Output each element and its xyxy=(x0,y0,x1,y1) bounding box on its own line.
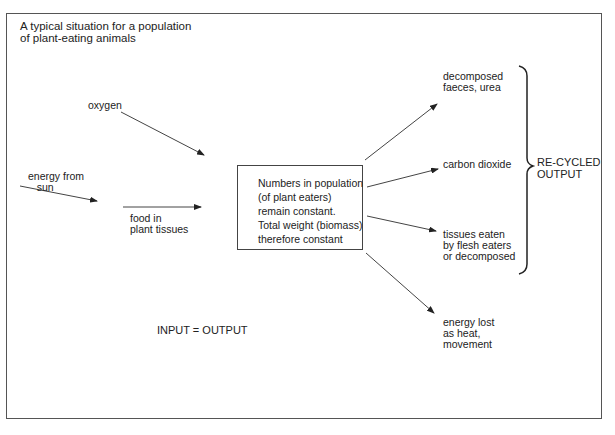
input-output-equation: INPUT = OUTPUT xyxy=(157,325,248,336)
diagram-title: A typical situation for a population of … xyxy=(20,20,191,44)
recycled-brace xyxy=(519,66,533,274)
tissues-label: tissues eaten by flesh eaters or decompo… xyxy=(443,229,515,262)
recycled-output-label: RE-CYCLED OUTPUT xyxy=(537,156,601,180)
decomposed-label: decomposed faeces, urea xyxy=(443,71,503,93)
population-box-text: Numbers in population (of plant eaters) … xyxy=(258,176,363,246)
carbon-dioxide-label: carbon dioxide xyxy=(443,159,511,170)
oxygen-arrow xyxy=(121,112,204,155)
population-box: Numbers in population (of plant eaters) … xyxy=(237,165,363,250)
energy-lost-label: energy lost as heat, movement xyxy=(443,317,494,350)
tissues-arrow xyxy=(367,216,436,231)
energy-lost-arrow xyxy=(366,253,434,313)
decomposed-arrow xyxy=(365,104,437,160)
oxygen-label: oxygen xyxy=(88,100,122,111)
energy-from-sun-label: energy from sun xyxy=(28,171,84,193)
carbon-dioxide-arrow xyxy=(367,169,438,187)
food-label: food in plant tissues xyxy=(130,213,188,235)
